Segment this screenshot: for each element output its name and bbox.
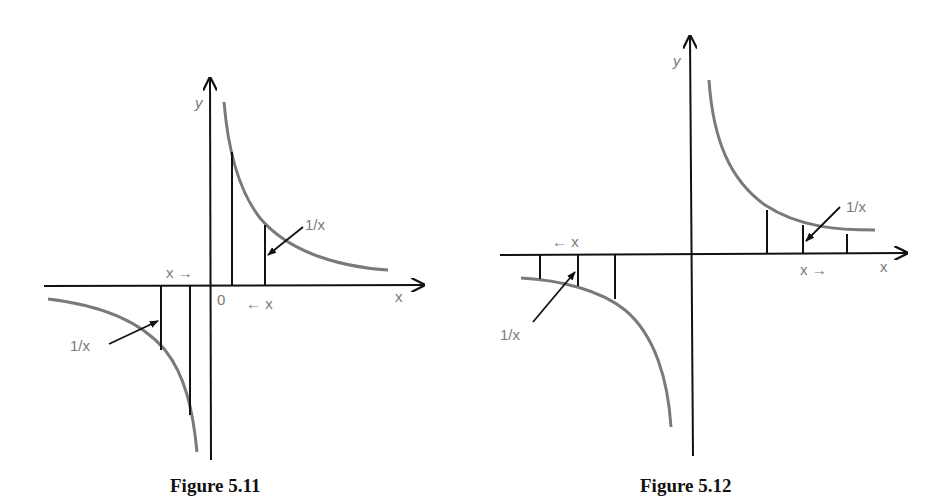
origin-label: 0: [217, 291, 225, 308]
x-axis: [44, 285, 424, 286]
y-axis-label: y: [672, 52, 682, 69]
y-axis: [690, 36, 693, 456]
lower-curve-label: 1/x: [500, 326, 521, 343]
upper-curve-label: 1/x: [846, 198, 867, 215]
upper-curve-label: 1/x: [305, 216, 326, 233]
x-axis: [500, 253, 907, 255]
x-left-arrow-label: ← x: [246, 295, 273, 312]
hyperbola-lower-branch: [48, 299, 197, 452]
x-axis-label: x: [880, 258, 888, 275]
lower-curve-label: 1/x: [70, 337, 91, 354]
y-axis-label: y: [194, 94, 204, 111]
figure-5-12: y 1/x ← x x → x 1/x Figure 5.12: [500, 36, 907, 496]
y-axis: [210, 78, 211, 460]
figure-5-11: y 1/x x → 0 ← x x 1/x Figure 5.11: [44, 78, 424, 496]
hyperbola-lower-branch: [521, 278, 671, 427]
x-right-arrow-label: x →: [800, 261, 827, 278]
hyperbola-upper-branch: [224, 102, 388, 270]
figure-caption: Figure 5.11: [170, 475, 260, 496]
x-right-arrow-label: x →: [166, 264, 193, 281]
x-left-arrow-label: ← x: [552, 233, 579, 250]
x-axis-label: x: [395, 288, 403, 305]
figures-canvas: y 1/x x → 0 ← x x 1/x Figure 5.11 y 1/x …: [0, 0, 943, 499]
figure-caption: Figure 5.12: [640, 475, 731, 496]
